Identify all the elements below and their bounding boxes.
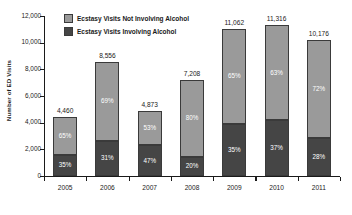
legend-item[interactable]: Ecstasy Visits Not Involving Alcohol (64, 14, 189, 23)
x-axis-line (44, 176, 340, 177)
bar-segment-percent-label: 69% (101, 98, 114, 104)
bar-group[interactable]: 65%35%4,4602005 (44, 16, 86, 176)
x-axis-tick-mark (255, 177, 256, 181)
bar-segment-percent-label: 37% (270, 145, 283, 151)
bar-segment-involving-alcohol[interactable]: 47% (138, 145, 162, 176)
bar-segment-involving-alcohol[interactable]: 35% (222, 124, 246, 176)
y-axis-tick-label: 4,000 (25, 118, 41, 125)
y-axis-tick-label: 10,000 (21, 38, 41, 45)
legend-swatch-icon (64, 27, 73, 36)
y-axis-tick-label: 0 (37, 172, 41, 179)
bar-group[interactable]: 53%47%4,8732007 (129, 16, 171, 176)
x-axis-tick-mark (340, 177, 341, 181)
x-axis-tick-mark (298, 177, 299, 181)
bar-stack[interactable]: 53%47% (138, 111, 162, 176)
bar-total-label: 4,873 (129, 101, 171, 108)
x-axis-category-label: 2008 (171, 184, 213, 191)
bar-segment-percent-label: 65% (59, 133, 72, 139)
x-axis-tick-mark (86, 177, 87, 181)
x-axis-category-label: 2005 (44, 184, 86, 191)
x-axis-category-label: 2010 (255, 184, 297, 191)
x-axis-category-label: 2011 (298, 184, 340, 191)
bar-stack[interactable]: 80%20% (180, 80, 204, 176)
y-axis-tick-label: 12,000 (21, 12, 41, 19)
plot-area: 02,0004,0006,0008,00010,00012,000 65%35%… (44, 16, 340, 176)
y-axis-tick-label: 2,000 (25, 145, 41, 152)
bar-segment-percent-label: 28% (313, 154, 326, 160)
bar-segment-involving-alcohol[interactable]: 28% (307, 138, 331, 176)
bar-group[interactable]: 72%28%10,1762011 (298, 16, 340, 176)
bar-segment-percent-label: 31% (101, 155, 114, 161)
bar-segment-not-involving-alcohol[interactable]: 63% (265, 25, 289, 120)
bar-segment-involving-alcohol[interactable]: 37% (265, 120, 289, 176)
y-axis-tick-label: 6,000 (25, 92, 41, 99)
bar-segment-not-involving-alcohol[interactable]: 69% (95, 62, 119, 141)
bar-stack[interactable]: 65%35% (222, 29, 246, 176)
bar-total-label: 4,460 (44, 107, 86, 114)
bar-stack[interactable]: 65%35% (53, 117, 77, 176)
bar-group[interactable]: 63%37%11,3162010 (255, 16, 297, 176)
legend-item-label: Ecstasy Visits Involving Alcohol (77, 28, 176, 35)
bar-group[interactable]: 80%20%7,2082008 (171, 16, 213, 176)
chart-legend: Ecstasy Visits Not Involving AlcoholEcst… (64, 14, 189, 39)
x-axis-category-label: 2009 (213, 184, 255, 191)
legend-item[interactable]: Ecstasy Visits Involving Alcohol (64, 27, 189, 36)
bar-segment-percent-label: 53% (143, 125, 156, 131)
y-axis-tick-label: 8,000 (25, 65, 41, 72)
bar-segment-percent-label: 72% (313, 86, 326, 92)
x-axis-tick-mark (44, 177, 45, 181)
bar-group[interactable]: 65%35%11,0622009 (213, 16, 255, 176)
bar-total-label: 8,556 (86, 52, 128, 59)
bar-stack[interactable]: 72%28% (307, 40, 331, 176)
bar-segment-not-involving-alcohol[interactable]: 72% (307, 40, 331, 138)
bar-segment-percent-label: 20% (186, 163, 199, 169)
x-axis-tick-mark (213, 177, 214, 181)
bar-segment-percent-label: 80% (186, 115, 199, 121)
bar-stack[interactable]: 63%37% (265, 25, 289, 176)
bar-segment-percent-label: 35% (59, 162, 72, 168)
y-axis-title-text: Number of ED Visits (6, 59, 13, 120)
x-axis-tick-mark (129, 177, 130, 181)
bar-segment-not-involving-alcohol[interactable]: 53% (138, 111, 162, 145)
x-axis-tick-mark (171, 177, 172, 181)
bar-segment-percent-label: 63% (270, 70, 283, 76)
bar-group[interactable]: 69%31%8,5562006 (86, 16, 128, 176)
bar-segment-not-involving-alcohol[interactable]: 80% (180, 80, 204, 157)
ecstasy-ed-visits-stacked-bar-chart: Number of ED Visits 02,0004,0006,0008,00… (0, 0, 352, 215)
bar-total-label: 11,062 (213, 19, 255, 26)
legend-item-label: Ecstasy Visits Not Involving Alcohol (77, 15, 189, 22)
bar-stack[interactable]: 69%31% (95, 62, 119, 176)
bar-segment-percent-label: 65% (228, 73, 241, 79)
bar-total-label: 11,316 (255, 15, 297, 22)
x-axis-category-label: 2006 (86, 184, 128, 191)
bar-segment-involving-alcohol[interactable]: 20% (180, 157, 204, 176)
y-axis-title: Number of ED Visits (2, 0, 16, 180)
bar-segment-not-involving-alcohol[interactable]: 65% (222, 29, 246, 125)
bar-total-label: 10,176 (298, 30, 340, 37)
bar-segment-involving-alcohol[interactable]: 31% (95, 141, 119, 176)
bar-segment-percent-label: 47% (143, 158, 156, 164)
legend-swatch-icon (64, 14, 73, 23)
x-axis-category-label: 2007 (129, 184, 171, 191)
bar-segment-involving-alcohol[interactable]: 35% (53, 155, 77, 176)
bar-segment-percent-label: 35% (228, 147, 241, 153)
bar-segment-not-involving-alcohol[interactable]: 65% (53, 117, 77, 156)
bar-total-label: 7,208 (171, 70, 213, 77)
